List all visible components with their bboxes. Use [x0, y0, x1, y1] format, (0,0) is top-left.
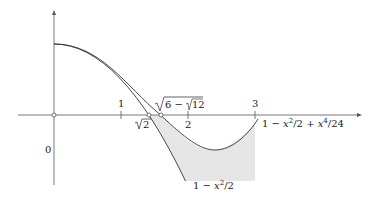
svg-text:6 −: 6 −	[165, 99, 183, 110]
label-taylor-2: 1 − x2/2	[193, 179, 234, 191]
tick-label-3: 3	[252, 98, 258, 109]
label-sqrt6-sqrt12: 6 − 12	[155, 97, 205, 111]
curve-taylor-2	[54, 44, 186, 181]
origin-point	[52, 113, 56, 117]
tick-label-2: 2	[185, 119, 191, 130]
svg-text:12: 12	[192, 99, 205, 110]
origin-label: 0	[45, 144, 51, 155]
taylor-diagram: 1 2 3 0 2 6 − 12 1 − x2/2 1 − x2/2 + x4/…	[0, 0, 377, 200]
tick-label-1: 1	[118, 98, 124, 109]
point-sqrt6-sqrt12	[159, 113, 163, 117]
curve-taylor-4	[54, 44, 258, 150]
label-taylor-4: 1 − x2/2 + x4/24	[262, 117, 344, 129]
y-axis-arrow-icon	[52, 10, 56, 15]
shaded-region	[147, 115, 255, 181]
svg-text:2: 2	[143, 119, 149, 130]
label-sqrt2: 2	[135, 119, 151, 130]
point-sqrt2	[147, 113, 151, 117]
x-axis-arrow-icon	[357, 113, 362, 117]
